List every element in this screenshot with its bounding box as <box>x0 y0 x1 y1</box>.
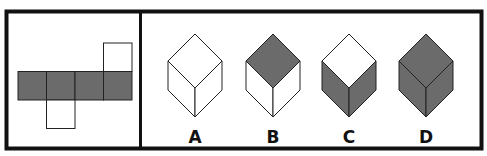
net-face-bottom-of-2 <box>47 100 76 129</box>
option-label: A <box>188 127 202 147</box>
option-b[interactable]: B <box>246 34 300 147</box>
cube-net <box>18 43 132 129</box>
option-label: B <box>267 127 280 147</box>
option-c[interactable]: C <box>322 34 376 147</box>
answer-options: ABCD <box>168 34 453 147</box>
net-face-row-3 <box>75 72 104 101</box>
net-face-row-1 <box>18 72 47 101</box>
net-face-row-4 <box>104 72 133 101</box>
option-label: C <box>343 127 355 147</box>
option-label: D <box>419 127 433 147</box>
puzzle-figure: ABCD <box>0 0 487 156</box>
net-face-top-of-4 <box>104 43 133 72</box>
net-face-row-2 <box>47 72 76 101</box>
option-d[interactable]: D <box>399 34 453 147</box>
option-a[interactable]: A <box>168 34 222 147</box>
